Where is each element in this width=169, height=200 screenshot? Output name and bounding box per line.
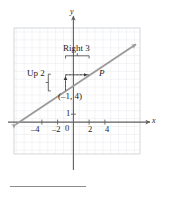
- point-p-label: P: [99, 69, 105, 78]
- x-tick-label-neg4: –4: [31, 125, 40, 134]
- coordinate-label: (–1, 4): [58, 92, 82, 101]
- run-annotation-label: Right 3: [63, 44, 90, 53]
- x-axis-name-label: x: [152, 117, 156, 125]
- footer-divider: [10, 186, 86, 187]
- x-tick-label-neg2: –2: [52, 125, 61, 134]
- origin-label: 0: [65, 124, 69, 133]
- y-axis-name-label: y: [70, 8, 74, 16]
- x-tick-label-4: 4: [105, 125, 109, 134]
- y-tick-label-1: 1: [66, 109, 70, 118]
- graph-canvas: [0, 0, 169, 200]
- coordinate-graph-figure: Right 3 Up 2 P (–1, 4) 1 0 –4 –2 2 4 x y: [0, 0, 169, 200]
- x-tick-label-2: 2: [88, 125, 92, 134]
- rise-annotation-label: Up 2: [27, 69, 45, 78]
